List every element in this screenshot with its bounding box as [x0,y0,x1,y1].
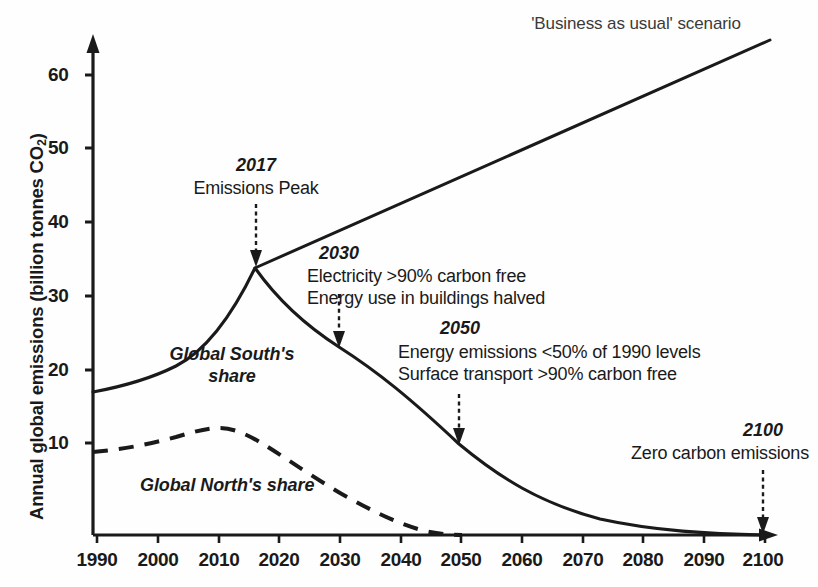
y-axis-title: Annual global emissions (billion tonnes … [26,133,49,520]
annotation-2017-line1: Emissions Peak [193,178,318,198]
x-tick-label-2020: 2020 [258,549,299,570]
annotation-2017-year: 2017 [236,155,276,175]
annotation-arrow-2017 [250,204,262,267]
x-tick-label-2030: 2030 [319,549,360,570]
x-tick-label-2050: 2050 [440,549,481,570]
annotation-2100-line1: Zero carbon emissions [631,443,809,463]
y-tick-label-20: 20 [48,359,69,380]
x-tick-label-1990: 1990 [76,549,117,570]
annotation-2050-line1: Energy emissions <50% of 1990 levels [398,342,700,362]
x-tick-label-2090: 2090 [683,549,724,570]
y-tick-label-10: 10 [48,432,69,453]
series-label-global-south-line1: Global South's [170,344,295,364]
annotation-2050-year: 2050 [440,318,480,338]
series-label-global-south-line2: share [208,366,256,386]
annotation-2030-line1: Electricity >90% carbon free [307,266,526,286]
annotation-arrow-2100 [757,470,769,534]
x-tick-label-2010: 2010 [198,549,239,570]
series-label-global-north: Global North's share [140,475,314,495]
y-tick-label-30: 30 [48,285,69,306]
y-axis-title-subscript: 2 [35,139,49,146]
x-tick-label-2040: 2040 [380,549,421,570]
series-business-as-usual [255,40,770,268]
x-tick-label-2070: 2070 [562,549,603,570]
annotation-2050-line2: Surface transport >90% carbon free [398,364,677,384]
x-tick-label-2080: 2080 [622,549,663,570]
annotation-2030-line2: Energy use in buildings halved [307,288,545,308]
y-tick-label-40: 40 [48,211,69,232]
annotation-2100-year: 2100 [743,420,783,440]
y-tick-label-60: 60 [48,64,69,85]
x-tick-label-2000: 2000 [137,549,178,570]
chart-figure: Annual global emissions (billion tonnes … [0,0,818,587]
y-axis [85,34,100,535]
annotation-business-as-usual-label: 'Business as usual' scenario [531,14,741,33]
annotation-arrow-2050 [453,394,465,445]
y-tick-label-50: 50 [48,137,69,158]
x-tick-label-2100: 2100 [742,549,783,570]
annotation-2030-year: 2030 [319,243,359,263]
y-axis-title-text: Annual global emissions (billion tonnes … [26,146,47,520]
x-tick-label-2060: 2060 [501,549,542,570]
y-axis-title-paren: ) [26,133,47,139]
